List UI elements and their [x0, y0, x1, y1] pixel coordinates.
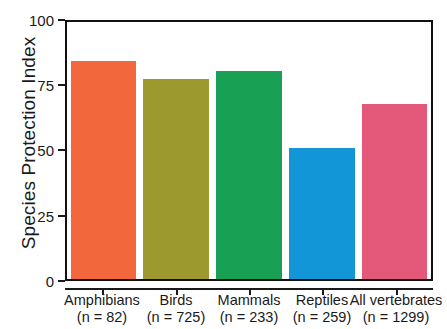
y-tick-label-50: 50 [20, 142, 54, 159]
bar-mammals [216, 71, 282, 279]
x-axis-label-all-vertebrates: All vertebrates (n = 1299) [344, 292, 447, 326]
bar-amphibians [71, 61, 137, 279]
x-label-category-4: All vertebrates [344, 292, 447, 309]
x-label-n-4: (n = 1299) [344, 309, 447, 326]
y-axis-tick-labels: 100 75 50 25 0 [18, 0, 54, 329]
y-axis-tick-marks [58, 0, 65, 329]
y-tick-mark-0 [58, 280, 65, 282]
y-tick-mark-75 [58, 84, 65, 86]
y-tick-label-25: 25 [20, 208, 54, 225]
bar-all-vertebrates [362, 104, 428, 279]
y-tick-mark-100 [58, 19, 65, 21]
y-tick-mark-25 [58, 215, 65, 217]
y-tick-mark-50 [58, 149, 65, 151]
y-tick-label-75: 75 [20, 77, 54, 94]
bar-reptiles [289, 148, 355, 279]
bar-birds [143, 79, 209, 279]
bars-container [67, 22, 431, 279]
y-tick-label-100: 100 [20, 12, 54, 29]
plot-area [65, 20, 433, 281]
y-tick-label-0: 0 [20, 273, 54, 290]
